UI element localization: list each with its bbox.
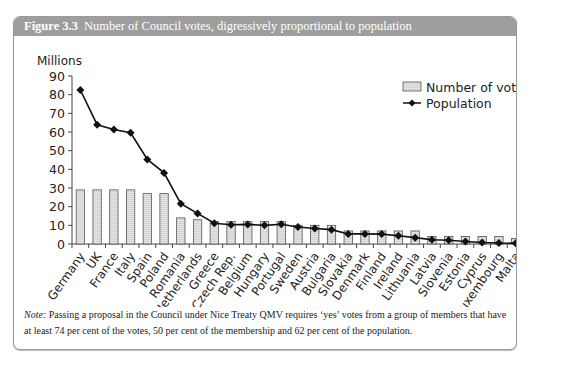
bar-votes bbox=[76, 190, 84, 244]
bar-votes bbox=[110, 190, 118, 244]
bar-votes bbox=[93, 190, 101, 244]
y-tick-label: 30 bbox=[49, 181, 65, 196]
y-tick-label: 70 bbox=[49, 106, 65, 121]
population-marker bbox=[110, 126, 118, 134]
y-tick-label: 0 bbox=[57, 237, 65, 252]
y-tick-label: 80 bbox=[49, 87, 65, 102]
figure-frame: Figure 3.3Number of Council votes, digre… bbox=[13, 16, 517, 350]
population-marker bbox=[177, 200, 185, 208]
y-tick-label: 90 bbox=[49, 69, 65, 84]
bar-votes bbox=[160, 194, 168, 244]
y-tick-label: 60 bbox=[49, 125, 65, 140]
y-tick-label: 40 bbox=[49, 162, 65, 177]
legend-label-population: Population bbox=[426, 96, 492, 111]
bar-votes bbox=[177, 218, 185, 244]
population-marker bbox=[194, 209, 202, 217]
y-tick-label: 50 bbox=[49, 143, 65, 158]
figure-note: Note: Passing a proposal in the Council … bbox=[24, 307, 514, 339]
y-tick-label: 10 bbox=[49, 218, 65, 233]
population-marker bbox=[93, 121, 101, 129]
note-text: Passing a proposal in the Council under … bbox=[24, 309, 506, 336]
legend-swatch-votes bbox=[403, 82, 421, 91]
bar-votes bbox=[193, 220, 201, 244]
bar-votes bbox=[143, 194, 151, 244]
bar-votes bbox=[126, 190, 134, 244]
y-axis-label: Millions bbox=[37, 54, 82, 68]
y-tick-label: 20 bbox=[49, 199, 65, 214]
legend-label-votes: Number of votes bbox=[426, 80, 516, 95]
population-marker bbox=[76, 86, 84, 94]
chart: Millions0102030405060708090GermanyUKFran… bbox=[14, 17, 516, 307]
x-tick-label: Germany bbox=[45, 250, 88, 303]
note-label: Note: bbox=[24, 309, 46, 320]
population-marker bbox=[127, 129, 135, 137]
legend-marker-population bbox=[409, 100, 416, 107]
